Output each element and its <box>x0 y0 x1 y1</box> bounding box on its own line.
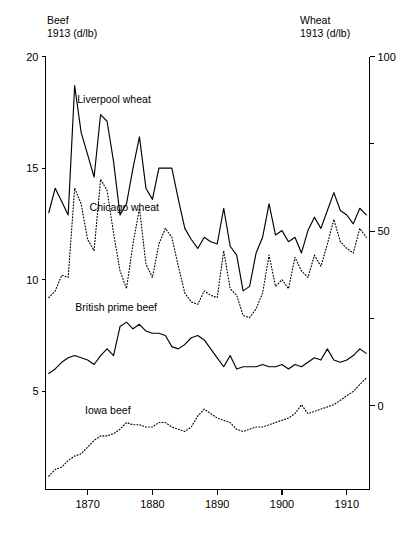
x-axis-tick-label: 1890 <box>205 498 229 510</box>
series-line-iowa-beef <box>49 378 367 476</box>
series-line-liverpool-wheat <box>49 86 367 291</box>
left-axis-tick-label: 20 <box>26 51 38 63</box>
chart-canvas: Beef 1913 (d/lb) Wheat 1913 (d/lb) 20151… <box>0 0 412 534</box>
right-axis-title-line1: Wheat <box>300 14 330 26</box>
series-layer <box>49 86 367 477</box>
x-axis-tick-label: 1880 <box>140 498 164 510</box>
series-label-iowa-beef: Iowa beef <box>85 404 131 416</box>
series-label-liverpool-wheat: Liverpool wheat <box>77 93 151 105</box>
series-line-british-prime-beef <box>49 322 367 373</box>
x-axis-tick-label: 1870 <box>75 498 99 510</box>
series-labels-layer: Liverpool wheatChicago wheatBritish prim… <box>75 93 159 415</box>
series-label-british-prime-beef: British prime beef <box>75 301 157 313</box>
left-axis-title-line1: Beef <box>47 14 69 26</box>
left-axis-title-line2: 1913 (d/lb) <box>47 27 97 39</box>
axes-layer: 201510510050018701880189019001910 <box>26 51 396 510</box>
right-axis-tick-label: 100 <box>378 51 396 63</box>
right-axis-tick-label: 0 <box>378 400 384 412</box>
left-axis-tick-label: 10 <box>26 274 38 286</box>
right-axis-title-line2: 1913 (d/lb) <box>300 27 350 39</box>
right-axis-tick-label: 50 <box>378 225 390 237</box>
left-axis-tick-label: 5 <box>32 385 38 397</box>
x-axis-tick-label: 1900 <box>270 498 294 510</box>
price-chart: Beef 1913 (d/lb) Wheat 1913 (d/lb) 20151… <box>0 0 412 534</box>
x-axis-tick-label: 1910 <box>335 498 359 510</box>
left-axis-tick-label: 15 <box>26 162 38 174</box>
series-label-chicago-wheat: Chicago wheat <box>90 201 160 213</box>
